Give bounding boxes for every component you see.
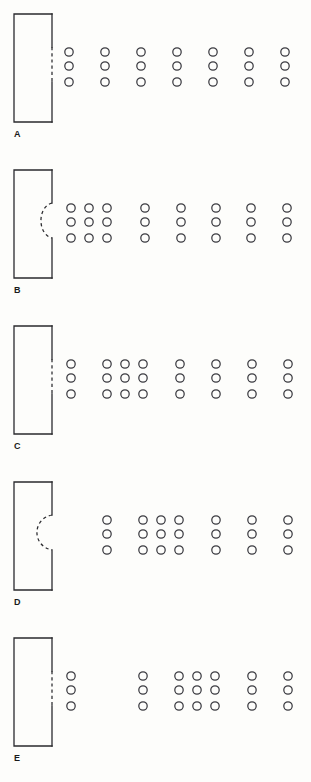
panel-b-circle-r3c8: [283, 234, 291, 242]
panel-d-circle-r3c5: [212, 546, 220, 554]
panel-d-circle-r3c4: [175, 546, 183, 554]
panel-c-circle-r2c6: [212, 374, 220, 382]
panel-c-circle-r3c4: [139, 390, 147, 398]
panel-d-circle-r3c1: [103, 546, 111, 554]
panel-e-circle-r3c4: [193, 702, 201, 710]
panel-label-b: B: [14, 286, 21, 295]
panel-d-circle-r3c6: [248, 546, 256, 554]
panel-b-circle-r2c3: [103, 218, 111, 226]
panel-c-circle-r1c3: [121, 360, 129, 368]
figure-root: ABCDE: [0, 0, 311, 782]
panel-c: [14, 326, 292, 434]
panel-c-circle-r2c3: [121, 374, 129, 382]
panel-a-circle-r1c4: [173, 48, 181, 56]
panel-e-circle-r2c7: [284, 686, 292, 694]
panel-d-circle-r2c5: [212, 530, 220, 538]
panel-label-d: D: [14, 598, 21, 607]
panel-c-circle-r3c1: [67, 390, 75, 398]
panel-a-circle-r1c6: [245, 48, 253, 56]
panel-b-circle-r2c4: [141, 218, 149, 226]
panel-a-circle-r3c3: [137, 78, 145, 86]
panel-d-circle-r2c3: [157, 530, 165, 538]
panel-a-circle-r1c2: [101, 48, 109, 56]
panel-d-circle-r1c6: [248, 516, 256, 524]
panel-d-circle-r1c2: [139, 516, 147, 524]
panel-b-circle-r3c4: [141, 234, 149, 242]
panel-e-circle-r3c5: [211, 702, 219, 710]
panel-a-circle-r3c5: [209, 78, 217, 86]
panel-a-circle-r2c1: [65, 62, 73, 70]
panel-a-circle-r1c1: [65, 48, 73, 56]
panel-b-circle-r1c8: [283, 204, 291, 212]
panel-d: [14, 482, 292, 590]
panel-d-circle-r1c4: [175, 516, 183, 524]
panel-d-circle-r2c7: [284, 530, 292, 538]
panel-e-circle-grid: [67, 672, 292, 710]
figure-canvas: [0, 0, 311, 782]
panel-a-circle-r1c7: [281, 48, 289, 56]
panel-c-circle-r3c5: [176, 390, 184, 398]
panel-e-circle-r1c7: [284, 672, 292, 680]
panel-d-circle-grid: [103, 516, 292, 554]
panel-a-circle-r2c4: [173, 62, 181, 70]
panel-e-rectangle-outline: [14, 638, 52, 746]
panel-b: [14, 170, 291, 278]
panel-c-circle-r3c8: [284, 390, 292, 398]
panel-c-circle-r2c5: [176, 374, 184, 382]
panel-d-circle-r2c2: [139, 530, 147, 538]
panel-b-circle-r2c2: [85, 218, 93, 226]
panel-a-circle-grid: [65, 48, 289, 86]
panel-c-circle-r1c4: [139, 360, 147, 368]
panel-c-circle-r1c5: [176, 360, 184, 368]
panel-b-circle-r2c5: [177, 218, 185, 226]
panel-c-circle-r1c1: [67, 360, 75, 368]
panel-b-rectangle-outline: [14, 170, 52, 278]
panel-b-circle-r1c1: [67, 204, 75, 212]
panel-e-circle-r3c6: [248, 702, 256, 710]
panel-c-circle-grid: [67, 360, 292, 398]
panel-label-c: C: [14, 442, 21, 451]
panel-a-circle-r3c4: [173, 78, 181, 86]
panel-b-circle-r3c6: [212, 234, 220, 242]
panel-c-circle-r3c7: [248, 390, 256, 398]
panel-d-circle-r3c7: [284, 546, 292, 554]
panel-e: [14, 638, 292, 746]
panel-c-circle-r2c8: [284, 374, 292, 382]
panel-a-circle-r3c6: [245, 78, 253, 86]
panel-d-rectangle-outline: [14, 482, 52, 590]
panel-b-circle-r3c3: [103, 234, 111, 242]
panel-c-circle-r1c8: [284, 360, 292, 368]
panel-a-circle-r2c3: [137, 62, 145, 70]
panel-e-circle-r3c2: [139, 702, 147, 710]
panel-d-circle-r2c1: [103, 530, 111, 538]
panel-d-circle-r1c5: [212, 516, 220, 524]
panel-e-circle-r2c6: [248, 686, 256, 694]
panel-c-circle-r3c3: [121, 390, 129, 398]
panel-e-circle-r1c4: [193, 672, 201, 680]
panel-b-circle-r2c6: [212, 218, 220, 226]
panel-b-circle-r2c8: [283, 218, 291, 226]
panel-e-circle-r3c7: [284, 702, 292, 710]
panel-b-circle-r1c6: [212, 204, 220, 212]
panel-e-circle-r1c2: [139, 672, 147, 680]
panel-b-circle-grid: [67, 204, 291, 242]
panel-c-circle-r1c7: [248, 360, 256, 368]
panel-d-dashed-boundary: [37, 515, 52, 550]
panel-b-circle-r1c7: [247, 204, 255, 212]
panel-a-circle-r2c6: [245, 62, 253, 70]
panel-a-circle-r1c3: [137, 48, 145, 56]
panel-b-circle-r1c2: [85, 204, 93, 212]
panel-e-circle-r2c3: [175, 686, 183, 694]
panel-a-circle-r3c7: [281, 78, 289, 86]
panel-d-circle-r2c4: [175, 530, 183, 538]
panel-a: [14, 14, 289, 122]
panel-d-circle-r1c1: [103, 516, 111, 524]
panel-e-circle-r3c1: [67, 702, 75, 710]
panel-b-circle-r1c4: [141, 204, 149, 212]
panel-d-circle-r3c3: [157, 546, 165, 554]
panel-c-circle-r2c7: [248, 374, 256, 382]
panel-b-dashed-boundary: [41, 203, 52, 238]
panel-a-circle-r2c2: [101, 62, 109, 70]
panel-b-circle-r3c1: [67, 234, 75, 242]
panel-a-circle-r2c5: [209, 62, 217, 70]
